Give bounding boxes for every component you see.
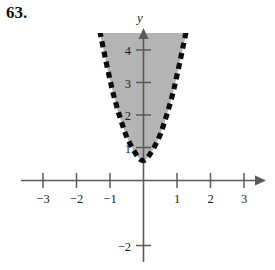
x-tick-label--2: −2: [70, 192, 83, 206]
x-tick-label--3: −3: [36, 192, 49, 206]
y-tick-label-4: 4: [125, 44, 132, 58]
x-tick-label-3: 3: [241, 192, 247, 206]
y-axis-label: y: [135, 10, 143, 25]
x-tick-label-1: 1: [174, 192, 180, 206]
x-axis-arrow-icon: [255, 176, 266, 186]
y-tick-label--2: −2: [118, 240, 131, 254]
x-tick-label-2: 2: [207, 192, 213, 206]
coordinate-plane: −3 −2 −1 1 2 3 4 3 2 1 −2 y: [0, 0, 275, 270]
x-tick-label--1: −1: [103, 192, 116, 206]
exercise-number: 63.: [6, 4, 27, 21]
y-tick-label-2: 2: [125, 109, 131, 123]
graph-figure: 63. −3 −2 −1 1: [0, 0, 275, 270]
y-tick-label-3: 3: [125, 77, 131, 91]
